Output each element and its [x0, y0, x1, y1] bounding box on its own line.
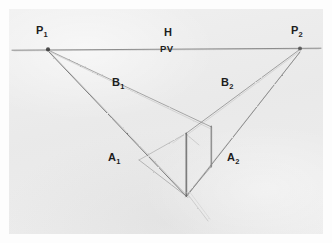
label-p2: P2: [291, 25, 303, 39]
construction-edges: [139, 134, 211, 197]
label-b2: B2: [221, 77, 234, 91]
overshoot-stroke: [186, 192, 208, 221]
overshoot-stroke-pair: [189, 191, 210, 219]
ray-b2: [186, 50, 299, 134]
ray-a1: [49, 52, 187, 197]
ray-b2-secondary: [188, 51, 300, 134]
vanishing-point-dot-p1: [46, 47, 50, 51]
vertical-edges: [186, 126, 212, 196]
label-horizon: H: [164, 27, 172, 38]
rays-from-p2: [185, 50, 300, 197]
edge-near-top-to-left-base: [139, 134, 186, 161]
label-a1: A1: [108, 152, 121, 166]
ray-a2-secondary: [185, 53, 299, 197]
overshoot-stroke-group: [186, 191, 210, 221]
label-a2: A2: [227, 152, 240, 166]
label-picture-vertical: PV: [160, 44, 173, 54]
ray-b1-secondary: [49, 51, 211, 128]
ray-a1-secondary: [51, 53, 190, 198]
vanishing-point-dot-p2: [298, 47, 302, 51]
label-b1: B1: [112, 77, 125, 91]
edge-near-top-stub: [186, 134, 199, 145]
label-p1: P1: [36, 25, 48, 39]
rays-from-p1: [48, 50, 212, 198]
edge-left-base-to-bottom: [139, 160, 186, 196]
figure-root: P1 P2 H PV B1 B2 A1 A2: [0, 0, 332, 243]
ray-b1: [48, 50, 212, 127]
edge-near-top-stub-left: [173, 134, 186, 144]
